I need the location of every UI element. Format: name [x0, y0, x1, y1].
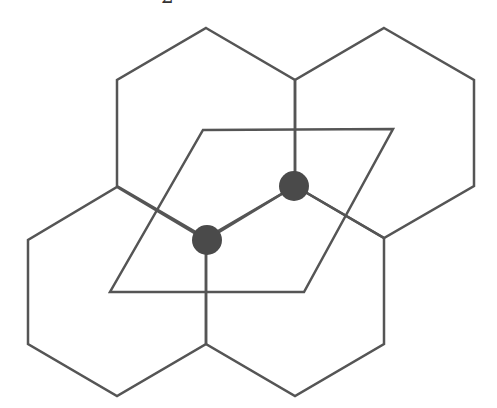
atom-b [192, 225, 222, 255]
hexagon-layer [28, 28, 474, 396]
hexagon-top-right [295, 28, 474, 238]
hexagon-top-left [117, 28, 295, 238]
honeycomb-lattice-diagram [0, 0, 497, 408]
atom-a [279, 171, 309, 201]
